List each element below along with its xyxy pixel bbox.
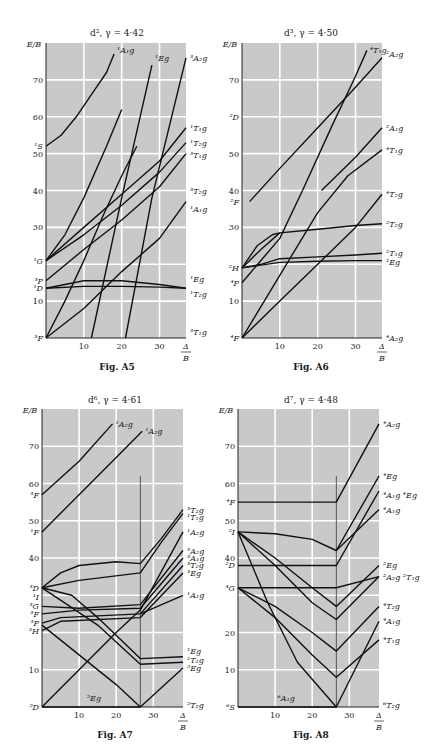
x-tick-label: 20 xyxy=(313,342,323,351)
y-tick-label: 70 xyxy=(33,76,43,85)
y-tick-label: 30 xyxy=(33,223,43,232)
state-term-label: ⁶T₂g xyxy=(382,701,400,710)
x-axis-label: Δ xyxy=(378,342,385,351)
figure-caption: Fig. A7 xyxy=(40,730,190,740)
state-term-label: ¹Eg xyxy=(155,54,169,63)
y-tick-label: 70 xyxy=(225,442,235,451)
free-ion-term-label: ³F xyxy=(30,610,39,619)
figure-caption: Fig. A5 xyxy=(42,362,192,372)
state-term-label: ¹T₂g xyxy=(190,290,207,299)
free-ion-term-label: ⁵D xyxy=(29,703,39,712)
y-tick-label: 20 xyxy=(225,629,235,638)
figure-a8: d⁷, γ = 4·48 102030102040506070E/BΔB⁴F²I… xyxy=(214,375,428,753)
y-axis-label: E/B xyxy=(218,406,234,415)
state-term-label: ⁴A₂g xyxy=(386,334,403,343)
plot-a5: 102030103040506070E/BΔB¹S¹G³P¹D³F¹A₁g¹Eg… xyxy=(0,0,214,375)
y-tick-label: 70 xyxy=(229,76,239,85)
y-axis-label: E/B xyxy=(222,40,238,49)
free-ion-term-label: ¹I xyxy=(33,593,40,602)
free-ion-term-label: ³F xyxy=(34,334,43,343)
free-ion-term-label: ²F xyxy=(230,198,239,207)
free-ion-term-label: ²H xyxy=(229,264,240,273)
state-term-label: ⁴T₂g xyxy=(383,602,400,611)
y-tick-label: 40 xyxy=(29,554,39,563)
free-ion-term-label: ⁶S xyxy=(225,703,235,712)
annotation-label: ⁶A₁g xyxy=(277,694,295,703)
y-tick-label: 60 xyxy=(33,113,43,122)
state-term-label: ¹T₂g xyxy=(190,139,207,148)
state-term-label: ¹A₂g xyxy=(145,427,162,436)
free-ion-term-label: ¹F xyxy=(30,528,39,537)
free-ion-term-label: ²I xyxy=(229,528,236,537)
y-tick-label: 50 xyxy=(225,517,235,526)
x-tick-label: 10 xyxy=(270,711,280,720)
y-tick-label: 10 xyxy=(225,666,235,675)
x-tick-label: 20 xyxy=(117,342,127,351)
free-ion-term-label: ⁴F xyxy=(226,498,235,507)
plot-a7: 1020301040506070E/BΔB³F¹F³D¹I³G³F³P³H⁵D¹… xyxy=(0,375,214,753)
state-term-label: ⁴T₂g xyxy=(386,190,403,199)
state-term-label: ²T₁g xyxy=(386,249,403,258)
state-term-label: ³T₂g xyxy=(190,187,207,196)
y-tick-label: 40 xyxy=(229,187,239,196)
figure-caption: Fig. A6 xyxy=(236,362,386,372)
y-tick-label: 50 xyxy=(29,517,39,526)
figure-a7: d⁶, γ = 4·61 1020301040506070E/BΔB³F¹F³D… xyxy=(0,375,214,753)
free-ion-term-label: ²D xyxy=(225,561,235,570)
x-tick-label: 20 xyxy=(307,711,317,720)
state-term-label: ³A₂g xyxy=(190,54,207,63)
state-term-label: ¹A₁g xyxy=(187,591,204,600)
state-term-label: ¹A₁g xyxy=(117,46,134,55)
x-tick-label: 30 xyxy=(154,342,164,351)
free-ion-term-label: ⁴P xyxy=(230,279,239,288)
x-tick-label: 30 xyxy=(350,342,360,351)
y-tick-label: 10 xyxy=(29,666,39,675)
x-axis-label: Δ xyxy=(179,711,186,720)
state-term-label: ²T₂g xyxy=(386,220,403,229)
state-term-label: ¹T₁g xyxy=(190,124,207,133)
state-term-label: ⁴T₁g xyxy=(370,46,387,55)
state-term-label: ⁴A₂g xyxy=(383,420,400,429)
free-ion-term-label: ³F xyxy=(30,491,39,500)
x-tick-label: 20 xyxy=(111,711,121,720)
x-tick-label: 10 xyxy=(79,342,89,351)
x-tick-label: 10 xyxy=(275,342,285,351)
state-term-label: ⁴T₁g xyxy=(383,636,400,645)
y-axis-label: E/B xyxy=(22,406,38,415)
state-term-label: ¹Eg xyxy=(187,647,201,656)
state-term-label: ¹A₁g xyxy=(190,205,207,214)
x-axis-label: Δ xyxy=(375,711,382,720)
x-axis-label: Δ xyxy=(182,342,189,351)
state-term-label: ⁵T₂g xyxy=(187,701,204,710)
free-ion-term-label: ¹D xyxy=(33,284,43,293)
state-term-label: ²A₂g xyxy=(386,50,403,59)
state-term-label: ⁴T₁g xyxy=(386,146,403,155)
state-term-label: ³T₁g xyxy=(190,328,207,337)
free-ion-term-label: ¹S xyxy=(34,142,43,151)
state-term-label: ⁴A₁g xyxy=(383,617,400,626)
state-term-label: ³T₁g xyxy=(190,151,207,160)
y-axis-label: E/B xyxy=(26,40,42,49)
y-tick-label: 40 xyxy=(33,187,43,196)
state-term-label: ¹A₂g xyxy=(187,528,204,537)
state-term-label: ⁴A₁g xyxy=(383,506,400,515)
state-term-label: ²A₁g xyxy=(386,124,403,133)
plot-a6: 1020301030405070E/BΔB²D²F²H⁴P⁴F⁴T₁g²A₂g²… xyxy=(214,0,428,375)
y-tick-label: 60 xyxy=(29,480,39,489)
plot-a8: 102030102040506070E/BΔB⁴F²I²D⁴G⁶S⁴A₂g⁴Eg… xyxy=(214,375,428,753)
figure-a5: d², γ = 4·42 102030103040506070E/BΔB¹S¹G… xyxy=(0,0,214,375)
free-ion-term-label: ³H xyxy=(29,627,40,636)
state-term-label: ¹A₂g xyxy=(116,420,133,429)
free-ion-term-label: ³D xyxy=(29,584,39,593)
state-term-label: ²A₂g ²T₁g xyxy=(383,573,420,582)
annotation-label: ⁵Eg xyxy=(87,694,101,703)
state-term-label: ¹T₁g xyxy=(187,513,204,522)
state-term-label: ¹Eg xyxy=(190,275,204,284)
x-tick-label: 10 xyxy=(74,711,84,720)
state-term-label: ²Eg xyxy=(383,561,397,570)
x-tick-label: 30 xyxy=(344,711,354,720)
x-tick-label: 30 xyxy=(148,711,158,720)
y-tick-label: 10 xyxy=(33,297,43,306)
y-tick-label: 30 xyxy=(229,223,239,232)
y-tick-label: 10 xyxy=(229,297,239,306)
